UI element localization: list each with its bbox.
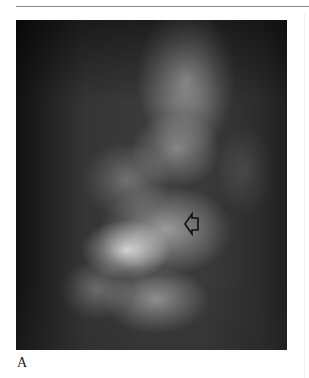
xray-vignette-layer — [16, 20, 287, 350]
top-rule — [16, 6, 309, 7]
xray-image — [16, 20, 287, 350]
page-edge-rule — [304, 14, 305, 378]
arrow-left-icon — [184, 212, 200, 236]
panel-label: A — [17, 355, 27, 371]
